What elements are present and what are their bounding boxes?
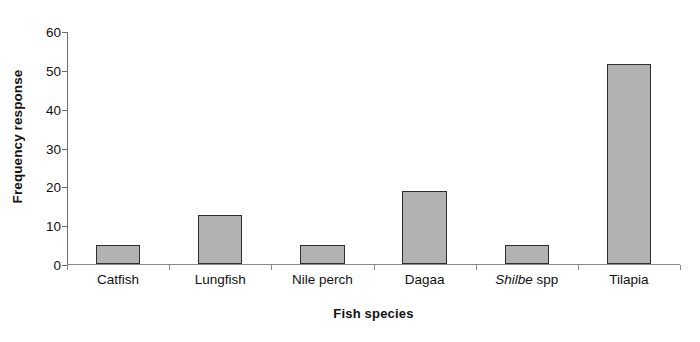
- y-axis-title: Frequency response: [0, 0, 36, 272]
- y-axis-tick-label: 30: [46, 141, 61, 156]
- y-axis-tick-label: 10: [46, 219, 61, 234]
- x-axis-tick-mark: [476, 265, 477, 270]
- y-axis-tick-label: 60: [46, 25, 61, 40]
- bar: [300, 245, 344, 264]
- x-axis-tick-mark: [67, 265, 68, 270]
- bar: [505, 245, 549, 264]
- x-axis-tick-label: Nile perch: [292, 272, 353, 287]
- y-axis-tick-label: 20: [46, 180, 61, 195]
- y-axis-title-text: Frequency response: [11, 69, 26, 203]
- bar: [198, 215, 242, 264]
- y-axis-tick-label: 40: [46, 102, 61, 117]
- bar: [607, 64, 651, 264]
- y-axis-tick-label: 0: [53, 258, 61, 273]
- x-axis-tick-label: Dagaa: [405, 272, 445, 287]
- species-name-italic: Shilbe: [495, 272, 533, 287]
- x-axis-tick-mark: [680, 265, 681, 270]
- x-axis-tick-label: Lungfish: [195, 272, 246, 287]
- x-axis-tick-label: Tilapia: [609, 272, 648, 287]
- x-axis-tick-mark: [374, 265, 375, 270]
- x-axis-tick-mark: [271, 265, 272, 270]
- y-axis-tick-labels: 0102030405060: [36, 0, 67, 272]
- x-axis-tick-mark: [578, 265, 579, 270]
- x-axis-tick-label: Catfish: [97, 272, 139, 287]
- x-axis-tick-labels: CatfishLungfishNile perchDagaaShilbe spp…: [67, 272, 680, 294]
- plot-area: [67, 32, 680, 265]
- bar: [96, 245, 140, 264]
- x-axis-tick-label: Shilbe spp: [495, 272, 558, 287]
- bars-layer: [67, 32, 680, 265]
- x-axis-tick-mark: [169, 265, 170, 270]
- bar: [402, 191, 446, 264]
- y-axis-tick-label: 50: [46, 63, 61, 78]
- x-axis-title: Fish species: [67, 306, 680, 321]
- bar-chart-figure: Frequency response 0102030405060 Catfish…: [0, 0, 700, 342]
